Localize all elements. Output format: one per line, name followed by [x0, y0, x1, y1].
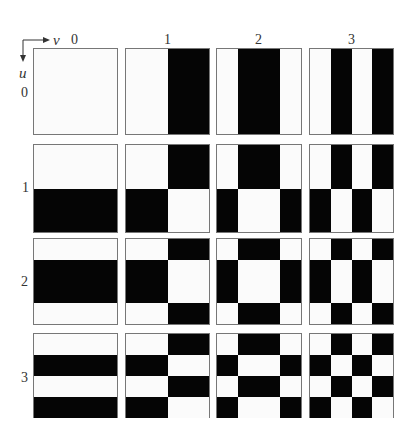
black-pixel — [147, 355, 168, 376]
black-pixel — [168, 239, 189, 260]
basis-image-u3-v3 — [309, 333, 394, 418]
v-axis-arrow — [23, 37, 50, 43]
white-pixel — [55, 92, 76, 113]
white-pixel — [259, 210, 280, 232]
black-pixel — [352, 397, 373, 418]
black-pixel — [259, 303, 280, 324]
white-pixel — [310, 49, 331, 70]
white-pixel — [55, 334, 76, 355]
white-pixel — [352, 92, 373, 113]
white-pixel — [168, 397, 189, 418]
col-label-2: 2 — [255, 33, 262, 47]
white-pixel — [188, 260, 209, 281]
col-label-3: 3 — [348, 33, 355, 47]
black-pixel — [126, 355, 147, 376]
black-pixel — [55, 210, 76, 232]
basis-image-u1-v1 — [125, 144, 210, 233]
black-pixel — [352, 282, 373, 303]
white-pixel — [331, 282, 352, 303]
white-pixel — [280, 145, 301, 167]
black-pixel — [147, 397, 168, 418]
white-pixel — [96, 49, 117, 70]
basis-image-u0-v2 — [216, 48, 302, 135]
black-pixel — [217, 189, 238, 211]
white-pixel — [55, 49, 76, 70]
black-pixel — [372, 376, 393, 397]
black-pixel — [55, 189, 76, 211]
black-pixel — [188, 49, 209, 70]
white-pixel — [76, 92, 97, 113]
black-pixel — [188, 334, 209, 355]
black-pixel — [238, 376, 259, 397]
white-pixel — [76, 167, 97, 189]
black-pixel — [126, 210, 147, 232]
black-pixel — [188, 145, 209, 167]
white-pixel — [126, 167, 147, 189]
white-pixel — [217, 303, 238, 324]
black-pixel — [259, 92, 280, 113]
black-pixel — [352, 210, 373, 232]
black-pixel — [34, 282, 55, 303]
white-pixel — [96, 92, 117, 113]
white-pixel — [96, 239, 117, 260]
white-pixel — [34, 334, 55, 355]
black-pixel — [238, 113, 259, 134]
black-pixel — [188, 113, 209, 134]
white-pixel — [280, 49, 301, 70]
white-pixel — [259, 282, 280, 303]
white-pixel — [188, 189, 209, 211]
black-pixel — [331, 145, 352, 167]
white-pixel — [147, 239, 168, 260]
black-pixel — [310, 260, 331, 281]
white-pixel — [126, 376, 147, 397]
black-pixel — [76, 189, 97, 211]
white-pixel — [55, 239, 76, 260]
white-pixel — [238, 210, 259, 232]
white-pixel — [55, 303, 76, 324]
white-pixel — [372, 260, 393, 281]
white-pixel — [352, 303, 373, 324]
black-pixel — [310, 397, 331, 418]
white-pixel — [168, 260, 189, 281]
white-pixel — [259, 260, 280, 281]
black-pixel — [96, 189, 117, 211]
black-pixel — [331, 113, 352, 134]
black-pixel — [96, 260, 117, 281]
black-pixel — [168, 145, 189, 167]
white-pixel — [188, 282, 209, 303]
black-pixel — [259, 145, 280, 167]
basis-image-u1-v2 — [216, 144, 302, 233]
white-pixel — [372, 397, 393, 418]
black-pixel — [126, 397, 147, 418]
black-pixel — [188, 303, 209, 324]
white-pixel — [280, 303, 301, 324]
black-pixel — [331, 167, 352, 189]
black-pixel — [76, 355, 97, 376]
black-pixel — [372, 145, 393, 167]
black-pixel — [310, 210, 331, 232]
black-pixel — [217, 282, 238, 303]
basis-image-u2-v3 — [309, 238, 394, 325]
white-pixel — [55, 145, 76, 167]
white-pixel — [34, 49, 55, 70]
black-pixel — [76, 210, 97, 232]
white-pixel — [147, 303, 168, 324]
white-pixel — [55, 167, 76, 189]
white-pixel — [34, 113, 55, 134]
white-pixel — [280, 376, 301, 397]
white-pixel — [147, 376, 168, 397]
black-pixel — [168, 334, 189, 355]
black-pixel — [259, 167, 280, 189]
white-pixel — [76, 145, 97, 167]
black-pixel — [147, 189, 168, 211]
black-pixel — [372, 239, 393, 260]
white-pixel — [310, 145, 331, 167]
white-pixel — [372, 189, 393, 211]
white-pixel — [217, 49, 238, 70]
black-pixel — [238, 334, 259, 355]
white-pixel — [310, 334, 331, 355]
black-pixel — [34, 189, 55, 211]
black-pixel — [55, 260, 76, 281]
row-label-2: 2 — [21, 275, 28, 289]
black-pixel — [168, 113, 189, 134]
